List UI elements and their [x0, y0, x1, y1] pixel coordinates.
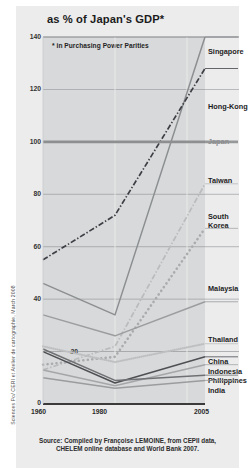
series-line-hong-kong	[43, 68, 205, 259]
series-line-malaysia	[43, 302, 205, 336]
figure-root: Sciences Po/ CERI et Atelier de cartogra…	[0, 0, 252, 475]
chart-svg	[0, 0, 252, 475]
series-line-singapore	[43, 37, 205, 315]
gridlines-group	[43, 37, 239, 404]
series-line-south-korea	[43, 228, 205, 364]
series-line-china	[43, 352, 205, 383]
